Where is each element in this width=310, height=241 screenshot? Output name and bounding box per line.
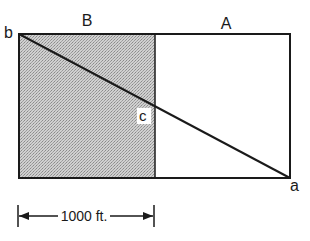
diagram: B A b c a 1000 ft.: [0, 0, 310, 241]
label-point-b: b: [4, 24, 13, 41]
label-region-a: A: [221, 15, 232, 32]
label-region-b: B: [82, 12, 93, 29]
region-b: [19, 34, 155, 178]
label-point-a: a: [290, 177, 299, 194]
label-point-c: c: [139, 107, 147, 124]
region-a: [155, 34, 290, 178]
dimension-label: 1000 ft.: [61, 208, 108, 224]
